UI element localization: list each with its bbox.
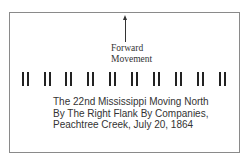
forward-label-line-2: Movement (111, 54, 152, 65)
company-column-icon (109, 72, 116, 86)
forward-label-line-1: Forward (111, 43, 152, 54)
company-column-icon (87, 72, 94, 86)
company-column-icon (44, 72, 51, 86)
company-column-icon (197, 72, 204, 86)
caption-line-2: By The Right Flank By Companies, (53, 108, 223, 120)
company-column-icon (65, 72, 72, 86)
company-column-icon (153, 72, 160, 86)
company-column-icon (131, 72, 138, 86)
company-column-icon (219, 72, 226, 86)
company-columns (0, 72, 252, 86)
company-column-icon (175, 72, 182, 86)
forward-arrow-shaft (125, 19, 126, 42)
diagram-caption: The 22nd Mississippi Moving North By The… (53, 96, 223, 131)
forward-movement-label: Forward Movement (111, 43, 152, 65)
caption-line-1: The 22nd Mississippi Moving North (53, 96, 223, 108)
caption-line-3: Peachtree Creek, July 20, 1864 (53, 119, 223, 131)
company-column-icon (22, 72, 29, 86)
